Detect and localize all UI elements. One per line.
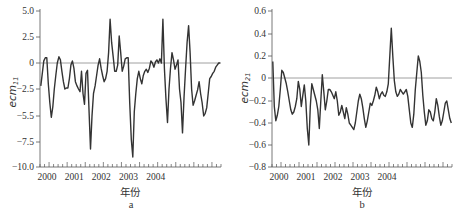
x-tick-label: 2001 [65, 172, 84, 182]
y-tick-label: 2.5 [22, 32, 34, 42]
chart-panel-b: 0.60.40.20−0.2−0.4−0.6−0.8 2000200120022… [238, 6, 452, 210]
chart-panel-a: 5.02.50−2.5−5.5−7.5−10.0 200020012002200… [6, 6, 221, 210]
y-tick-label: −0.2 [249, 96, 266, 106]
panel-label: b [359, 199, 364, 210]
y-tick-label: −0.8 [249, 162, 266, 172]
figure: 5.02.50−2.5−5.5−7.5−10.0 200020012002200… [0, 0, 454, 212]
y-tick-label: 0.4 [254, 29, 266, 39]
x-tick-label: 2003 [119, 172, 138, 182]
data-series-line [41, 19, 220, 157]
x-axis: 20002001200220032004 [270, 162, 453, 182]
x-tick-label: 2001 [297, 172, 316, 182]
x-tick-label: 2004 [378, 172, 397, 182]
y-tick-label: 0 [29, 58, 34, 68]
y-tick-label: 5.0 [22, 6, 34, 16]
y-tick-label: −0.4 [249, 118, 266, 128]
x-axis: 20002001200220032004 [38, 162, 221, 182]
x-axis-title: 年份 [352, 186, 373, 198]
x-tick-label: 2002 [92, 172, 111, 182]
y-axis-title: ecm21 [238, 73, 252, 104]
x-tick-label: 2000 [38, 172, 57, 182]
data-series-line [273, 28, 452, 145]
y-tick-label: 0.2 [254, 51, 266, 61]
x-axis-title: 年份 [120, 186, 141, 198]
y-axis: 0.60.40.20−0.2−0.4−0.6−0.8 [249, 6, 272, 172]
y-tick-label: −5.5 [17, 111, 34, 121]
y-tick-label: 0 [261, 73, 266, 83]
panel-label: a [129, 199, 134, 210]
x-tick-label: 2000 [270, 172, 289, 182]
y-tick-label: 0.6 [254, 6, 266, 16]
y-axis-title: ecm11 [6, 77, 20, 108]
y-tick-label: −0.6 [249, 140, 266, 150]
x-tick-label: 2004 [146, 172, 165, 182]
x-tick-label: 2002 [324, 172, 343, 182]
x-tick-label: 2003 [351, 172, 370, 182]
y-tick-label: −10.0 [12, 162, 34, 172]
y-tick-label: −7.5 [17, 137, 34, 147]
